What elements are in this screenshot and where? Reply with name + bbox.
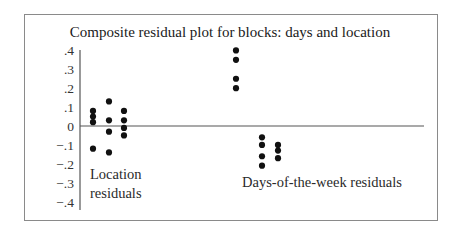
location-residuals-label: Location bbox=[90, 166, 142, 182]
data-point bbox=[121, 125, 127, 131]
data-point bbox=[106, 129, 112, 135]
data-point bbox=[259, 134, 265, 140]
y-tick-label: −.4 bbox=[56, 195, 74, 210]
data-point bbox=[106, 117, 112, 123]
data-point bbox=[90, 113, 96, 119]
data-point bbox=[259, 153, 265, 159]
days-of-week-residuals-label: Days-of-the-week residuals bbox=[242, 174, 402, 190]
y-tick-label: .1 bbox=[64, 100, 74, 115]
data-point bbox=[90, 108, 96, 114]
y-tick-label: 0 bbox=[67, 119, 74, 134]
data-point bbox=[233, 47, 239, 53]
data-point bbox=[233, 85, 239, 91]
data-point bbox=[275, 147, 281, 153]
y-tick-label: −.3 bbox=[56, 176, 74, 191]
residual-plot: Composite residual plot for blocks: days… bbox=[0, 0, 461, 233]
y-tick-label: −.1 bbox=[56, 138, 74, 153]
data-point bbox=[121, 108, 127, 114]
data-points bbox=[90, 47, 281, 168]
group-labels: LocationresidualsDays-of-the-week residu… bbox=[90, 166, 402, 201]
data-point bbox=[90, 119, 96, 125]
data-point bbox=[233, 57, 239, 63]
data-point bbox=[259, 163, 265, 169]
data-point bbox=[121, 132, 127, 138]
data-point bbox=[259, 142, 265, 148]
y-tick-labels: .4.3.2.10−.1−.2−.3−.4 bbox=[56, 43, 74, 209]
data-point bbox=[121, 117, 127, 123]
y-tick-label: −.2 bbox=[56, 157, 74, 172]
y-tick-label: .4 bbox=[64, 43, 74, 58]
data-point bbox=[275, 142, 281, 148]
data-point bbox=[106, 149, 112, 155]
y-tick-label: .2 bbox=[64, 81, 74, 96]
data-point bbox=[233, 76, 239, 82]
data-point bbox=[275, 155, 281, 161]
data-point bbox=[106, 98, 112, 104]
location-residuals-label: residuals bbox=[90, 185, 142, 201]
chart-title: Composite residual plot for blocks: days… bbox=[70, 24, 391, 40]
y-tick-label: .3 bbox=[64, 62, 74, 77]
data-point bbox=[90, 146, 96, 152]
